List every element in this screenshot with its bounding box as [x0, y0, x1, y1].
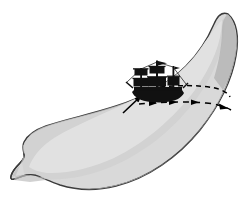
figure-root: A gray crescent or banana shaped form wi…: [0, 0, 247, 201]
foremast-lower-sail: [134, 79, 149, 87]
mizzen-pennant: [174, 66, 180, 69]
mainmast-top-sail: [150, 67, 165, 74]
ship-bowsprit: [126, 82, 133, 88]
sailing-ship-group: [126, 61, 188, 103]
foremast: [133, 68, 150, 88]
mizzenmast: [167, 66, 180, 88]
arrowhead-4: [219, 104, 229, 110]
mainmast-main-sail: [148, 77, 166, 87]
mizzen-sail: [168, 77, 180, 86]
banana-ship-illustration: [0, 0, 247, 201]
foremast-upper-sail: [135, 69, 148, 76]
